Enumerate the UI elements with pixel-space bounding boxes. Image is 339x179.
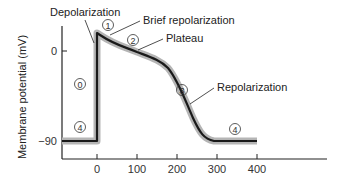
y-tick-label-0: 0 — [51, 45, 57, 57]
brief-repolarization-label: Brief repolarization — [143, 14, 235, 26]
svg-text:4: 4 — [232, 125, 237, 135]
phase-marker-0: 0 — [75, 79, 86, 90]
x-tick-label-200: 200 — [168, 163, 186, 175]
svg-text:0: 0 — [77, 80, 82, 90]
action-potential-chart: 0 −90 0 100 200 300 400 Membrane potenti… — [0, 0, 339, 179]
svg-text:1: 1 — [105, 21, 110, 31]
phase-marker-4-right: 4 — [230, 124, 241, 135]
plateau-label: Plateau — [166, 32, 203, 44]
x-tick-label-400: 400 — [248, 163, 266, 175]
x-tick-label-100: 100 — [128, 163, 146, 175]
svg-text:4: 4 — [77, 123, 82, 133]
svg-text:2: 2 — [130, 36, 135, 46]
y-tick-label-minus90: −90 — [38, 135, 57, 147]
brief-repolarization-leader — [110, 21, 140, 35]
repolarization-leader — [190, 88, 214, 104]
plateau-leader — [138, 39, 163, 50]
x-tick-label-300: 300 — [208, 163, 226, 175]
x-tick-label-0: 0 — [94, 163, 100, 175]
y-axis-label: Membrane potential (mV) — [16, 35, 28, 159]
phase-marker-1: 1 — [103, 20, 114, 31]
depolarization-leader — [85, 20, 94, 43]
svg-text:3: 3 — [179, 86, 184, 96]
phase-marker-2: 2 — [128, 35, 139, 46]
depolarization-label: Depolarization — [50, 6, 120, 18]
repolarization-label: Repolarization — [217, 81, 287, 93]
phase-marker-4-left: 4 — [75, 122, 86, 133]
